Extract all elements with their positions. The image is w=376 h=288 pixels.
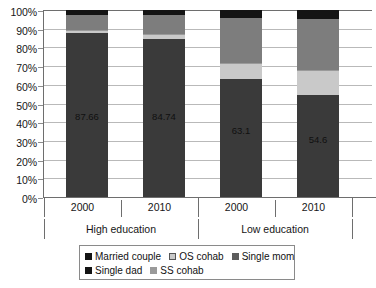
- bar-segment-single-mom[interactable]: [297, 19, 339, 71]
- x-axis-group-row: High education Low education: [44, 219, 376, 240]
- x-group-low-education: Low education: [198, 219, 352, 239]
- stacked-bar-chart: 100% 90% 80% 70% 60% 50% 40% 30% 20% 10%…: [0, 0, 376, 288]
- x-axis-categories: 2000 2010 2000 2010 High education Low e…: [44, 198, 376, 240]
- x-category-low-2000: 2000: [198, 198, 275, 217]
- bar-segment-single-dad[interactable]: [143, 10, 185, 15]
- legend-item-os-cohab[interactable]: OS cohab: [169, 251, 223, 262]
- bar-value-label: 84.74: [143, 112, 185, 122]
- legend-swatch-icon: [150, 267, 157, 274]
- legend-label: SS cohab: [160, 265, 203, 276]
- legend-row-1: Married couple OS cohab Single mom: [85, 249, 289, 263]
- legend-swatch-icon: [232, 253, 239, 260]
- legend-label: Married couple: [95, 251, 161, 262]
- legend-swatch-icon: [169, 253, 176, 260]
- x-axis-divider: [352, 198, 353, 217]
- bar-segment-single-dad[interactable]: [220, 10, 262, 18]
- x-axis-divider: [198, 198, 199, 217]
- x-group-high-education: High education: [44, 219, 198, 239]
- plot-area: 87.66 84.74 63.1: [44, 10, 372, 197]
- bar-segment-os-cohab[interactable]: [297, 71, 339, 95]
- legend-swatch-icon: [85, 253, 92, 260]
- bar-high-2010[interactable]: 84.74: [143, 10, 185, 197]
- bar-segment-ss-cohab[interactable]: [66, 30, 108, 31]
- legend-swatch-icon: [85, 267, 92, 274]
- y-tick-label-70: 70%: [0, 63, 37, 73]
- y-tick-label-30: 30%: [0, 138, 37, 148]
- x-group-divider: [352, 219, 353, 239]
- y-axis-labels: 100% 90% 80% 70% 60% 50% 40% 30% 20% 10%…: [0, 10, 37, 197]
- x-category-high-2010: 2010: [121, 198, 198, 217]
- bar-low-2000[interactable]: 63.1: [220, 10, 262, 197]
- legend-item-married-couple[interactable]: Married couple: [85, 251, 161, 262]
- bar-segment-os-cohab[interactable]: [66, 31, 108, 33]
- legend-item-single-dad[interactable]: Single dad: [85, 265, 142, 276]
- bar-segment-single-mom[interactable]: [220, 18, 262, 63]
- y-tick-mark-0: [38, 198, 43, 199]
- legend-label: OS cohab: [179, 251, 223, 262]
- plot-wrapper: 100% 90% 80% 70% 60% 50% 40% 30% 20% 10%…: [0, 10, 376, 200]
- bar-segment-single-mom[interactable]: [66, 15, 108, 30]
- y-tick-label-100: 100%: [0, 7, 37, 17]
- y-tick-label-60: 60%: [0, 82, 37, 92]
- bar-segment-os-cohab[interactable]: [220, 63, 262, 79]
- bar-segment-single-dad[interactable]: [297, 10, 339, 19]
- bar-segment-single-dad[interactable]: [66, 10, 108, 15]
- legend-item-ss-cohab[interactable]: SS cohab: [150, 265, 203, 276]
- bar-segment-married-couple[interactable]: [297, 95, 339, 197]
- bar-segment-ss-cohab[interactable]: [297, 70, 339, 71]
- bar-segment-married-couple[interactable]: [220, 79, 262, 197]
- y-tick-label-90: 90%: [0, 26, 37, 36]
- bar-segment-single-mom[interactable]: [143, 15, 185, 34]
- x-category-high-2000: 2000: [44, 198, 121, 217]
- legend-label: Single mom: [242, 251, 295, 262]
- bar-low-2010[interactable]: 54.6: [297, 10, 339, 197]
- bar-segment-os-cohab[interactable]: [143, 35, 185, 39]
- x-group-divider: [198, 219, 199, 239]
- x-axis-divider: [121, 200, 122, 217]
- x-axis-divider: [275, 200, 276, 217]
- x-axis-divider: [44, 198, 45, 217]
- legend-item-single-mom[interactable]: Single mom: [232, 251, 295, 262]
- legend-row-2: Single dad SS cohab: [85, 263, 289, 277]
- bar-value-label: 87.66: [66, 112, 108, 122]
- y-tick-label-40: 40%: [0, 119, 37, 129]
- legend-label: Single dad: [95, 265, 142, 276]
- x-category-low-2010: 2010: [275, 198, 352, 217]
- y-tick-label-50: 50%: [0, 101, 37, 111]
- x-group-divider: [44, 219, 45, 239]
- y-tick-label-10: 10%: [0, 175, 37, 185]
- y-tick-label-20: 20%: [0, 157, 37, 167]
- chart-legend: Married couple OS cohab Single mom Singl…: [79, 245, 295, 280]
- bar-segment-ss-cohab[interactable]: [143, 34, 185, 35]
- bar-value-label: 63.1: [220, 126, 262, 136]
- x-axis-year-row: 2000 2010 2000 2010: [44, 198, 376, 218]
- bar-value-label: 54.6: [297, 135, 339, 145]
- bar-high-2000[interactable]: 87.66: [66, 10, 108, 197]
- y-tick-label-80: 80%: [0, 44, 37, 54]
- y-tick-label-0: 0%: [0, 194, 37, 204]
